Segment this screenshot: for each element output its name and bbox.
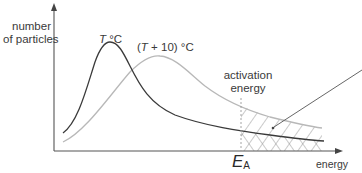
activation-label-line1: activation <box>221 69 275 82</box>
y-axis-label: number of particles <box>3 20 51 46</box>
activation-energy-label: activation energy <box>221 69 275 95</box>
curve-label-high-temp: (T + 10) °C <box>137 41 194 54</box>
ea-marker-label: EA <box>232 152 250 173</box>
y-axis-label-line2: of particles <box>3 33 51 46</box>
activation-label-line2: energy <box>221 82 275 95</box>
ea-subscript: A <box>243 160 250 171</box>
curve-label-low-temp: T °C <box>99 33 122 46</box>
temperature-symbol: T <box>141 41 148 53</box>
y-axis-label-line1: number <box>3 20 51 33</box>
ea-symbol: E <box>232 152 243 171</box>
maxwell-boltzmann-diagram <box>0 0 362 173</box>
temperature-symbol: T <box>99 33 106 45</box>
curve-label-unit: °C <box>106 33 122 45</box>
x-axis-label: energy <box>316 158 348 171</box>
curve-label-rest: + 10) °C <box>148 41 194 53</box>
y-axis <box>51 3 57 151</box>
